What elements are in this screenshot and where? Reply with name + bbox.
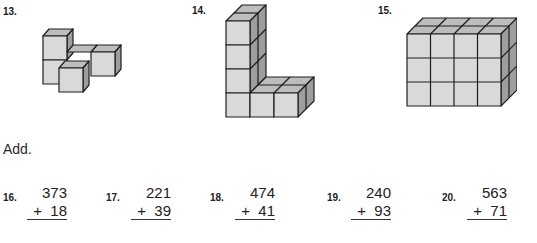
addition-problem-18: 18. 474 + 41 xyxy=(210,184,275,224)
addend-bottom: + 18 xyxy=(27,202,67,220)
addend-bottom: + 41 xyxy=(235,202,275,220)
addend-top: 563 xyxy=(482,184,507,201)
problem-number: 19. xyxy=(327,192,341,203)
cube-figure-15 xyxy=(405,14,517,108)
cube-figure-13 xyxy=(40,26,130,96)
addend-top: 221 xyxy=(146,184,171,201)
figure-number-15: 15. xyxy=(378,5,392,16)
problem-number: 17. xyxy=(106,192,120,203)
addend-top: 474 xyxy=(250,184,275,201)
addition-problem-20: 20. 563 + 71 xyxy=(442,184,507,224)
addend-bottom: + 71 xyxy=(467,202,507,220)
addend-bottom: + 93 xyxy=(351,202,391,220)
addend-bottom: + 39 xyxy=(131,202,171,220)
addition-problem-16: 16. 373 + 18 xyxy=(3,184,67,224)
figure-number-13: 13. xyxy=(3,6,17,17)
figure-number-14: 14. xyxy=(192,5,206,16)
cube-figure-14 xyxy=(224,2,336,120)
addition-problem-17: 17. 221 + 39 xyxy=(106,184,171,224)
problem-number: 20. xyxy=(442,192,456,203)
addend-top: 373 xyxy=(42,184,67,201)
section-label-add: Add. xyxy=(3,141,32,157)
addend-top: 240 xyxy=(366,184,391,201)
problem-number: 18. xyxy=(210,192,224,203)
addition-problem-19: 19. 240 + 93 xyxy=(327,184,391,224)
problem-number: 16. xyxy=(3,192,17,203)
